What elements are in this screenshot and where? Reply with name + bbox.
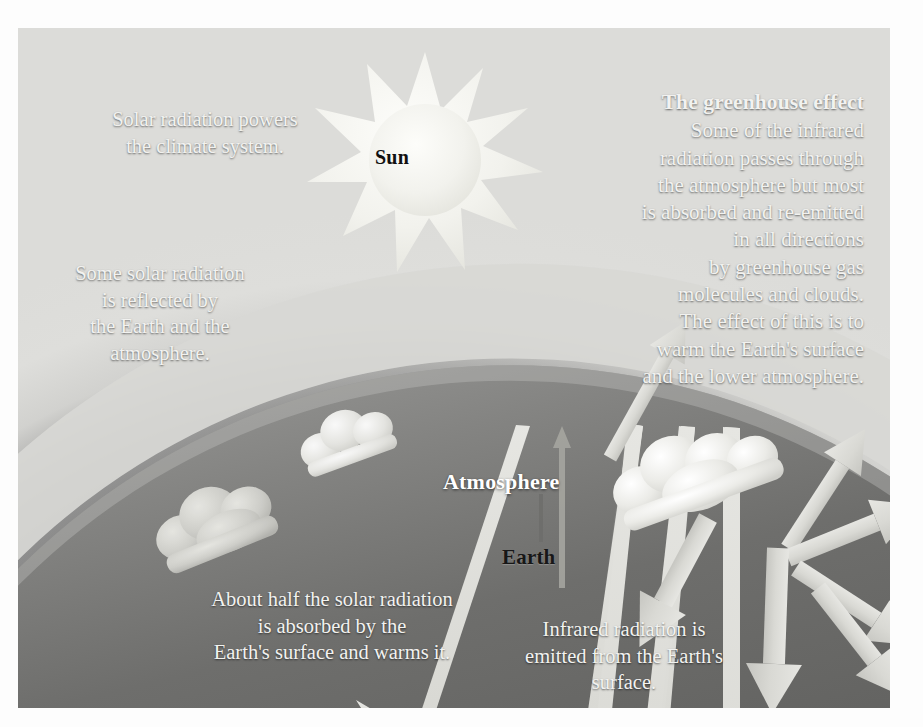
absorbed-radiation-annotation: About half the solar radiation is absorb… — [196, 586, 468, 666]
greenhouse-effect-figure: Sun Atmosphere Earth The greenhouse effe… — [18, 28, 890, 708]
page-canvas: Sun Atmosphere Earth The greenhouse effe… — [0, 0, 923, 727]
atmosphere-label: Atmosphere — [443, 469, 559, 495]
reflected-radiation-annotation: Some solar radiation is reflected by the… — [46, 260, 274, 367]
sun-label: Sun — [375, 146, 409, 169]
infrared-emission-annotation: Infrared radiation is emitted from the E… — [498, 616, 750, 696]
solar-power-annotation: Solar radiation powers the climate syste… — [90, 106, 320, 159]
greenhouse-effect-annotation: The greenhouse effectSome of the infrare… — [564, 62, 864, 390]
atmosphere-boundary-tick — [539, 494, 543, 542]
greenhouse-effect-heading: The greenhouse effect — [564, 89, 864, 117]
greenhouse-effect-body: Some of the infrared radiation passes th… — [642, 118, 864, 388]
earth-label: Earth — [502, 545, 556, 570]
